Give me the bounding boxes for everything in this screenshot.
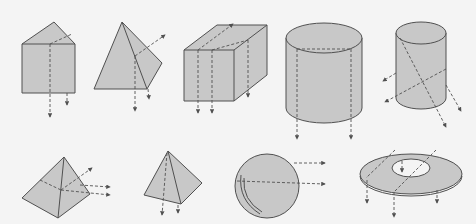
annulus-disk: [360, 150, 462, 217]
cut-arrow: [446, 85, 461, 111]
square-pyramid: [144, 151, 202, 215]
sphere: [235, 154, 325, 218]
diagram-canvas: [0, 0, 476, 224]
solids-diagram: [0, 0, 476, 224]
cylinder-narrow: [383, 22, 461, 127]
triangular-pyramid: [94, 22, 165, 111]
cylinder-wide: [286, 23, 362, 139]
square-pyramid-tilted: [22, 157, 110, 218]
cut-arrow: [383, 73, 396, 81]
cut-arrow: [148, 89, 149, 99]
rectangular-prism: [184, 24, 267, 113]
triangular-prism: [22, 22, 75, 117]
